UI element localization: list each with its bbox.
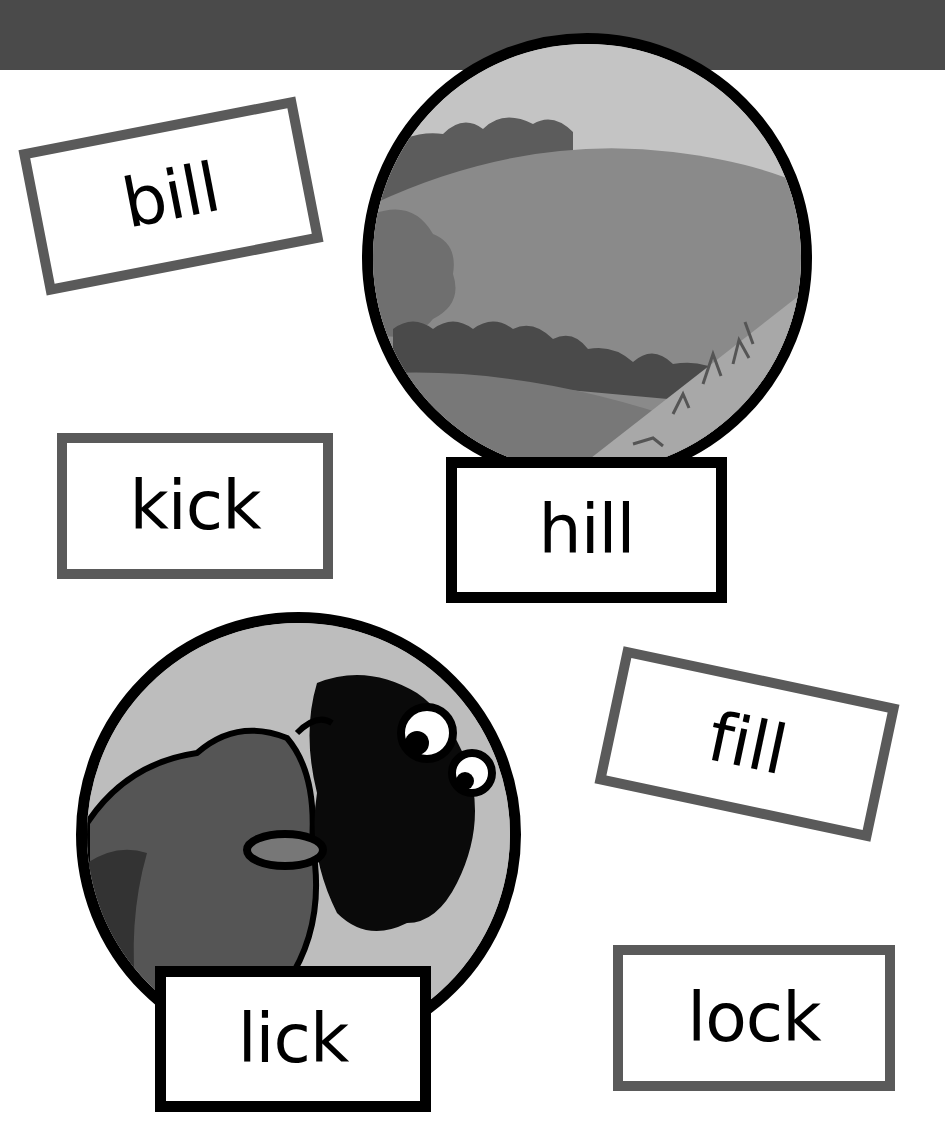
word-card-label: fill (702, 703, 791, 785)
word-card-label: kick (129, 472, 260, 540)
hill-picture (362, 33, 812, 483)
word-card-lock[interactable]: lock (613, 945, 895, 1091)
picture-card-hill[interactable]: hill (446, 457, 727, 603)
word-card-label: bill (117, 153, 224, 238)
picture-card-label: lick (238, 1005, 349, 1073)
word-card-label: lock (687, 984, 820, 1052)
word-card-kick[interactable]: kick (57, 433, 333, 579)
word-card-bill[interactable]: bill (18, 96, 323, 295)
hill-landscape-icon (373, 44, 801, 472)
word-card-fill[interactable]: fill (595, 646, 900, 842)
picture-card-lick[interactable]: lick (155, 966, 431, 1112)
picture-card-label: hill (539, 496, 635, 564)
